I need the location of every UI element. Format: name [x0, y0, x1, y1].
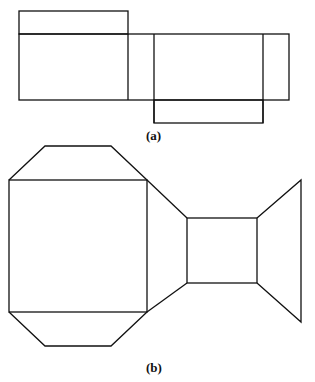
- diagram-canvas: [0, 0, 315, 382]
- net-b-top-trapezoid: [9, 146, 147, 180]
- net-b-connector-bottom: [147, 283, 187, 312]
- net-b-large-square: [9, 180, 147, 312]
- net-b-small-square: [187, 218, 257, 283]
- net-b-bottom-trapezoid: [9, 312, 147, 346]
- caption-a: (a): [146, 128, 161, 144]
- net-a-top-face: [19, 11, 128, 34]
- net-a-bottom-face: [154, 100, 263, 123]
- net-b-right-trapezoid: [257, 180, 301, 322]
- net-a: [19, 11, 289, 123]
- caption-b: (b): [146, 360, 162, 376]
- net-b-connector-top: [147, 180, 187, 218]
- net-b: [9, 146, 301, 346]
